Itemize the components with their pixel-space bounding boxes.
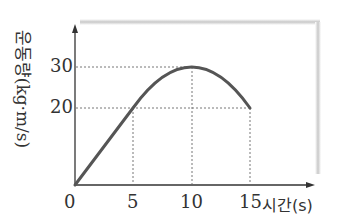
x-tick-0: 0 [64,193,75,211]
x-axis-label: 시간(s) [262,192,313,216]
axes [72,24,315,188]
y-axis-label: 운동량(kg·m/s) [4,14,44,164]
x-tick-5: 5 [127,193,138,211]
y-tick-20: 20 [50,98,73,116]
frame-shadow-top [80,19,320,25]
frame-shadow-right [315,22,321,174]
y-tick-30: 30 [50,57,73,75]
guide-lines [76,67,250,184]
momentum-curve [75,67,250,185]
momentum-time-chart: 운동량(kg·m/s) 30 20 0 5 10 15 시간(s) [0,0,342,223]
x-tick-10: 10 [180,193,203,211]
y-axis-label-text: 운동량(kg·m/s) [12,30,37,148]
x-tick-15: 15 [239,193,262,211]
